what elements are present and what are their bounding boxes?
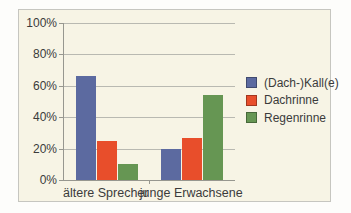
bar — [182, 138, 202, 180]
legend-label: (Dach-)Kall(e) — [264, 76, 339, 90]
grid-line — [64, 54, 235, 55]
category-label: ältere Sprecher — [63, 186, 148, 200]
y-tick-label: 60% — [19, 79, 57, 93]
y-tick-label: 20% — [19, 142, 57, 156]
legend: (Dach-)Kall(e)DachrinneRegenrinne — [246, 77, 339, 123]
y-tick-mark — [59, 180, 63, 181]
bar — [203, 95, 223, 180]
y-tick-label: 40% — [19, 110, 57, 124]
y-tick-mark — [59, 149, 63, 150]
legend-label: Regenrinne — [264, 111, 326, 125]
legend-item: (Dach-)Kall(e) — [246, 77, 339, 88]
y-tick-label: 100% — [19, 16, 57, 30]
chart-frame: (Dach-)Kall(e)DachrinneRegenrinne 0%20%4… — [18, 9, 331, 202]
legend-swatch — [246, 95, 257, 106]
bar — [97, 141, 117, 180]
x-tick-mark — [149, 181, 150, 184]
legend-swatch — [246, 112, 257, 123]
grid-line — [64, 23, 235, 24]
y-tick-mark — [59, 86, 63, 87]
legend-swatch — [246, 77, 257, 88]
category-label: junge Erwachsene — [140, 186, 243, 200]
y-tick-mark — [59, 117, 63, 118]
bar — [118, 164, 138, 180]
y-tick-label: 0% — [19, 173, 57, 187]
bar — [161, 149, 181, 180]
legend-item: Regenrinne — [246, 112, 339, 123]
legend-item: Dachrinne — [246, 95, 339, 106]
bar — [76, 76, 96, 180]
y-tick-label: 80% — [19, 47, 57, 61]
plot-area — [63, 23, 235, 181]
legend-label: Dachrinne — [264, 93, 319, 107]
y-tick-mark — [59, 23, 63, 24]
y-tick-mark — [59, 54, 63, 55]
